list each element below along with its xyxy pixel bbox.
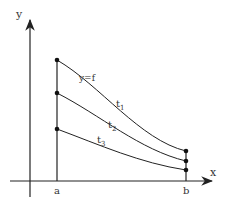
b-label: b	[183, 185, 189, 196]
label-y-eq-f: y=f	[78, 73, 96, 83]
a-label: a	[54, 185, 60, 196]
curve-t3	[57, 129, 186, 170]
point-b-t3	[184, 168, 189, 173]
label-t2: t2	[108, 119, 117, 133]
point-b-t2	[184, 159, 189, 164]
point-a-f	[55, 58, 60, 63]
label-t1: t1	[116, 98, 125, 112]
label-t3: t3	[97, 134, 106, 148]
point-a-t3	[55, 127, 60, 132]
point-a-t2	[55, 91, 60, 96]
y-axis-label: y	[15, 8, 23, 21]
x-axis-label: x	[210, 166, 217, 179]
point-b-f	[184, 149, 189, 154]
function-diagram: x y a b y=f t1 t2 t3	[0, 0, 226, 201]
